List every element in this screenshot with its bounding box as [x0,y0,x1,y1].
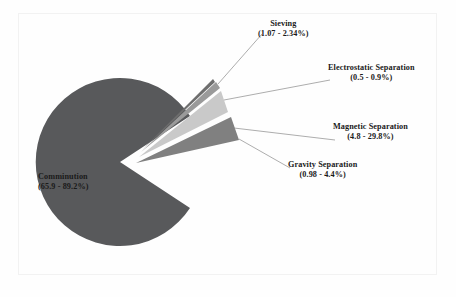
pie-slices [36,78,239,246]
slice-label-sieving: Sieving (1.07 - 2.34%) [258,19,309,38]
slice-label-gravity: Gravity Separation (0.98 - 4.4%) [288,160,357,179]
slice-label-magnetic-range: (4.8 - 29.8%) [333,132,408,142]
slice-label-gravity-range: (0.98 - 4.4%) [288,170,357,180]
pie-chart-canvas [0,0,456,297]
leader-line-magnetic [234,128,335,140]
slice-label-electrostatic-range: (0.5 - 0.9%) [328,73,415,83]
leader-line-gravity [239,139,290,168]
slice-label-sieving-name: Sieving [258,19,309,29]
leader-lines [218,34,335,168]
slice-label-comminution-name: Comminution [38,172,89,182]
slice-label-comminution-range: (65.9 - 89.2%) [38,182,89,192]
slice-label-magnetic-name: Magnetic Separation [333,122,408,132]
slice-label-electrostatic-name: Electrostatic Separation [328,63,415,73]
slice-label-magnetic: Magnetic Separation (4.8 - 29.8%) [333,122,408,141]
pie-slice-comminution[interactable] [36,78,190,246]
slice-label-sieving-range: (1.07 - 2.34%) [258,29,309,39]
pie-chart-figure: Comminution (65.9 - 89.2%) Sieving (1.07… [0,0,456,297]
leader-line-electrostatic [224,80,330,100]
slice-label-electrostatic: Electrostatic Separation (0.5 - 0.9%) [328,63,415,82]
slice-label-comminution: Comminution (65.9 - 89.2%) [38,172,89,191]
slice-label-gravity-name: Gravity Separation [288,160,357,170]
leader-line-sieving [218,34,262,84]
